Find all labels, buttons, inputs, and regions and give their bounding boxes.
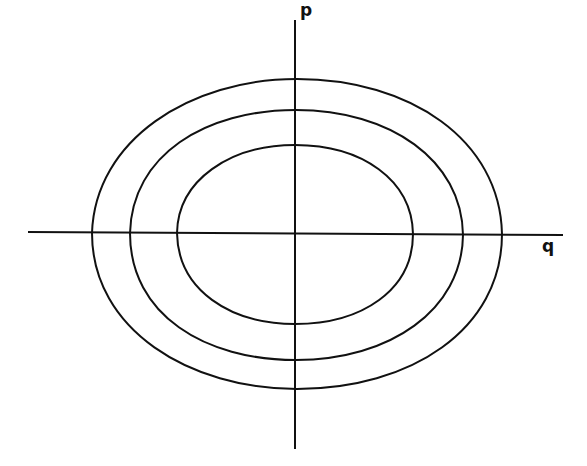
diagram-canvas [0, 0, 587, 466]
phase-portrait-diagram: p q [0, 0, 587, 466]
q-axis-label: q [542, 238, 554, 255]
p-axis-label: p [300, 2, 312, 19]
